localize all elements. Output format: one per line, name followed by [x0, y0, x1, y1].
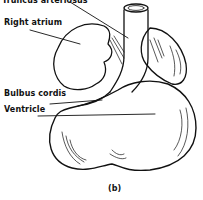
label-right-atrium: Right atrium: [4, 18, 62, 27]
figure-caption: (b): [108, 184, 121, 193]
right-atrium-outline: [54, 24, 112, 90]
leader-ventricle: [38, 114, 155, 116]
heart-diagram: [0, 0, 203, 200]
leader-atrium: [30, 30, 80, 44]
bulbus-cordis-outline: [78, 92, 110, 106]
label-ventricle: Ventricle: [4, 105, 45, 114]
leader-truncus: [70, 2, 128, 38]
label-bulbus-cordis: Bulbus cordis: [4, 89, 66, 98]
label-truncus-arteriosus: Truncus arteriosus: [2, 0, 88, 5]
